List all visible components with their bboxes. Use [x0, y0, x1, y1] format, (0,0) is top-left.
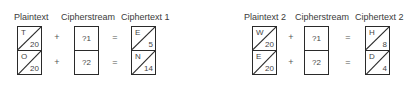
plus-operator: +: [52, 33, 62, 42]
ciphertext-value: 8: [383, 40, 387, 49]
ciphertext-value: 14: [144, 64, 153, 73]
ciphertext-letter: H: [369, 28, 375, 37]
cipherstream-cell: ?2: [75, 51, 98, 75]
ciphertext-letter: D: [369, 52, 375, 61]
ciphertext-label: Ciphertext 2: [355, 12, 404, 22]
ciphertext-cell: H 8: [366, 27, 389, 51]
cipherstream-box: ?1 ?2: [74, 26, 99, 75]
ciphertext-label: Ciphertext 1: [121, 12, 170, 22]
plaintext-letter: O: [21, 52, 27, 61]
plaintext-label: Plaintext: [14, 12, 49, 22]
plaintext-value: 20: [265, 40, 274, 49]
cipherstream-label: Cipherstream: [61, 12, 115, 22]
ciphertext-box: E 5 N 14: [131, 26, 156, 75]
ciphertext-value: 4: [383, 64, 387, 73]
cipherstream-value: ?1: [75, 34, 98, 43]
plaintext-letter: W: [256, 28, 264, 37]
plaintext-letter: T: [21, 28, 26, 37]
plaintext-value: 20: [265, 64, 274, 73]
plaintext-box: T 20 O 20: [17, 26, 42, 75]
cipherstream-cell: ?2: [305, 51, 328, 75]
equals-operator: =: [343, 33, 353, 42]
plus-operator: +: [286, 33, 296, 42]
plaintext-cell: E 20: [253, 51, 276, 75]
cipherstream-cell: ?1: [75, 27, 98, 51]
plaintext-label: Plaintext 2: [244, 12, 286, 22]
plaintext-letter: E: [256, 52, 261, 61]
cipherstream-value: ?2: [305, 58, 328, 67]
ciphertext-value: 5: [149, 40, 153, 49]
plaintext-value: 20: [30, 64, 39, 73]
ciphertext-letter: E: [135, 28, 140, 37]
equals-operator: =: [110, 58, 120, 67]
plus-operator: +: [286, 58, 296, 67]
equals-operator: =: [110, 33, 120, 42]
plaintext-value: 20: [30, 40, 39, 49]
plaintext-cell: O 20: [18, 51, 41, 75]
plaintext-cell: W 20: [253, 27, 276, 51]
equals-operator: =: [343, 58, 353, 67]
cipherstream-label: Cipherstream: [295, 12, 349, 22]
plaintext-box: W 20 E 20: [252, 26, 277, 75]
cipherstream-value: ?1: [305, 34, 328, 43]
ciphertext-cell: D 4: [366, 51, 389, 75]
plus-operator: +: [52, 58, 62, 67]
cipherstream-cell: ?1: [305, 27, 328, 51]
ciphertext-letter: N: [135, 52, 141, 61]
ciphertext-box: H 8 D 4: [365, 26, 390, 75]
cipherstream-box: ?1 ?2: [304, 26, 329, 75]
cipherstream-value: ?2: [75, 58, 98, 67]
plaintext-cell: T 20: [18, 27, 41, 51]
ciphertext-cell: E 5: [132, 27, 155, 51]
ciphertext-cell: N 14: [132, 51, 155, 75]
